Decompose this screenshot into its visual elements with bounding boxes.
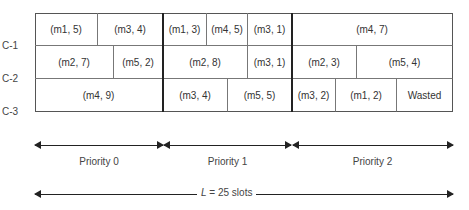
wasted-slot-cell: Wasted — [397, 79, 453, 112]
slot-cell: (m1, 2) — [336, 79, 397, 112]
slot-cell: (m4, 9) — [35, 79, 163, 112]
priority-2-label: Priority 2 — [292, 156, 453, 167]
slot-cell: (m5, 4) — [357, 46, 453, 79]
slot-cell: (m2, 3) — [292, 46, 357, 79]
slot-cell: (m3, 1) — [248, 46, 292, 79]
priority-divider-2 — [291, 13, 293, 112]
slot-cell: (m3, 4) — [163, 79, 228, 112]
slot-cell: (m3, 1) — [248, 13, 292, 46]
priority-0-label: Priority 0 — [35, 156, 163, 167]
slot-cell: (m3, 2) — [292, 79, 336, 112]
slot-cell: (m3, 4) — [98, 13, 163, 46]
channel-label-c1: C-1 — [2, 40, 18, 51]
channel-label-c2: C-2 — [2, 73, 18, 84]
slot-cell: (m2, 7) — [35, 46, 114, 79]
slot-cell: (m5, 5) — [228, 79, 292, 112]
priority-2-arrow — [293, 145, 453, 146]
slot-cell: (m4, 5) — [207, 13, 248, 46]
slot-cell: (m1, 3) — [163, 13, 207, 46]
priority-0-arrow — [35, 145, 163, 146]
slot-cell: (m5, 2) — [114, 46, 163, 79]
priority-1-arrow — [164, 145, 291, 146]
length-value: = 25 slots — [207, 187, 253, 198]
channel-label-c3: C-3 — [2, 106, 18, 117]
slot-cell: (m4, 7) — [292, 13, 453, 46]
priority-divider-1 — [162, 13, 164, 112]
length-label: L = 25 slots — [197, 187, 256, 198]
slot-cell: (m1, 5) — [35, 13, 98, 46]
priority-1-label: Priority 1 — [163, 156, 292, 167]
slot-cell: (m2, 8) — [163, 46, 248, 79]
